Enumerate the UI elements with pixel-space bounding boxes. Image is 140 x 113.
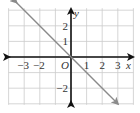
x-tick-label: −2	[33, 59, 45, 71]
origin-label: O	[61, 59, 69, 71]
x-tick-label: 3	[115, 59, 121, 71]
y-tick-label: 1	[63, 35, 69, 47]
coordinate-graph: x y O −3−212321−2	[0, 0, 140, 113]
y-axis-label: y	[73, 7, 79, 19]
y-tick-label: −2	[56, 82, 68, 94]
x-tick-label: 2	[99, 59, 105, 71]
x-axis-label: x	[125, 59, 131, 71]
x-tick-label: 1	[84, 59, 90, 71]
x-tick-label: −3	[17, 59, 29, 71]
y-tick-label: 2	[63, 20, 69, 32]
